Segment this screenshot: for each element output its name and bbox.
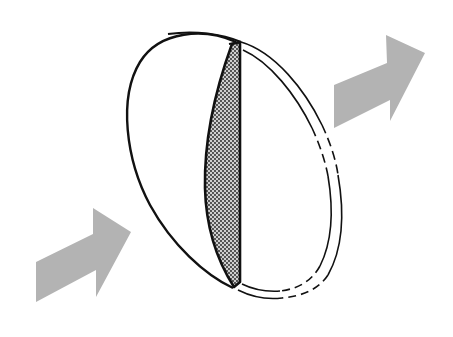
rear-rim-inner-solid-bottom — [242, 284, 280, 291]
rear-rim-outer-dashed-bottom — [282, 275, 328, 298]
outgoing-light-arrow — [334, 35, 425, 128]
rear-rim-outer-solid-top — [241, 42, 322, 125]
rear-rim-inner-dashed-bottom — [280, 266, 320, 291]
rear-rim-inner-solid-top — [243, 50, 312, 128]
rear-rim-inner-dashed — [312, 128, 328, 176]
lens-diagram: Plano-convex lens cross-section with lig… — [0, 0, 453, 337]
lens-rear-rim — [238, 42, 342, 299]
rear-rim-outer-dashed — [322, 125, 338, 175]
incoming-light-arrow — [36, 208, 131, 302]
diagram-canvas — [0, 0, 453, 337]
lens-cross-section — [205, 42, 240, 287]
lens-top-rim — [168, 32, 241, 44]
rear-rim-inner-solid-right — [320, 176, 331, 266]
